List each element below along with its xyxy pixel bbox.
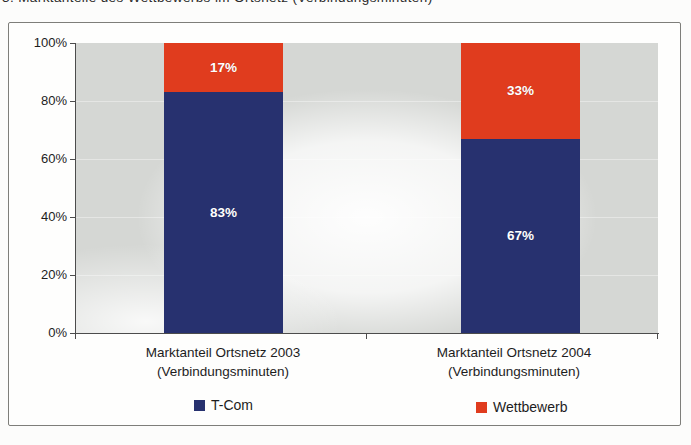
bar-segment-wettbewerb-2003: 17% <box>164 43 283 92</box>
bar-value-label: 17% <box>210 60 237 75</box>
x-tick-left <box>75 334 76 339</box>
bar-segment-tcom-2004: 67% <box>461 139 580 333</box>
y-tick-20 <box>70 275 76 276</box>
y-axis-label-100: 100% <box>21 36 67 50</box>
x-axis-line <box>70 333 659 334</box>
y-axis-label-80: 80% <box>21 94 67 108</box>
category-label-line1: Marktanteil Ortsnetz 2004 <box>374 343 654 362</box>
stacked-bar-2003: 17% 83% <box>164 43 283 333</box>
y-tick-40 <box>70 217 76 218</box>
y-tick-80 <box>70 101 76 102</box>
category-label-line2: (Verbindungsminuten) <box>83 362 363 381</box>
wettbewerb-legend-swatch-icon <box>476 402 487 413</box>
plot-area: 17% 83% 33% 67% <box>76 43 658 333</box>
tcom-legend-swatch-icon <box>194 400 205 411</box>
x-tick-middle <box>366 334 367 339</box>
cropped-page-caption: 3. Marktanteile des Wettbewerbs im Ortsn… <box>2 0 502 6</box>
bar-value-label: 83% <box>210 205 237 220</box>
x-tick-right <box>657 334 658 339</box>
caption-text: 3. Marktanteile des Wettbewerbs im Ortsn… <box>2 0 433 5</box>
bar-segment-tcom-2003: 83% <box>164 92 283 333</box>
bar-value-label: 67% <box>507 228 534 243</box>
y-axis-label-60: 60% <box>21 152 67 166</box>
category-label-2003: Marktanteil Ortsnetz 2003 (Verbindungsmi… <box>83 343 363 381</box>
category-label-line1: Marktanteil Ortsnetz 2003 <box>83 343 363 362</box>
y-tick-100 <box>70 43 76 44</box>
y-tick-60 <box>70 159 76 160</box>
category-label-line2: (Verbindungsminuten) <box>374 362 654 381</box>
legend-item-wettbewerb: Wettbewerb <box>476 399 567 415</box>
category-label-2004: Marktanteil Ortsnetz 2004 (Verbindungsmi… <box>374 343 654 381</box>
stacked-bar-2004: 33% 67% <box>461 43 580 333</box>
y-axis-label-0: 0% <box>21 326 67 340</box>
y-axis-label-40: 40% <box>21 210 67 224</box>
bar-segment-wettbewerb-2004: 33% <box>461 43 580 139</box>
chart-frame: 17% 83% 33% 67% 100% 80% 60% 40% 20% 0% … <box>8 22 681 426</box>
legend-label-wettbewerb: Wettbewerb <box>493 399 567 415</box>
bar-value-label: 33% <box>507 83 534 98</box>
y-axis-line <box>75 43 76 334</box>
legend-label-tcom: T-Com <box>211 397 253 413</box>
legend-item-tcom: T-Com <box>194 397 253 413</box>
y-axis-label-20: 20% <box>21 268 67 282</box>
